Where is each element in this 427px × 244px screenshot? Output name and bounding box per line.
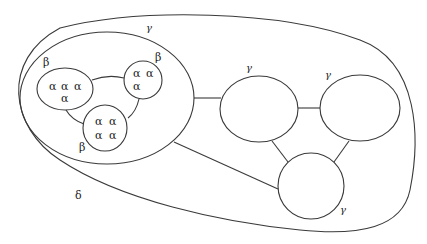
delta-label: δ	[75, 189, 82, 202]
alpha: α	[74, 80, 82, 93]
alpha: α	[95, 129, 103, 142]
alpha: α	[61, 92, 69, 105]
alpha: α	[109, 129, 117, 142]
gamma-node-left	[220, 76, 298, 142]
edge-beta1-beta2	[92, 76, 124, 80]
gamma-node-label-right: γ	[325, 69, 331, 80]
alpha: α	[133, 67, 141, 80]
alpha: α	[133, 80, 141, 93]
gamma-node-bottom	[278, 153, 344, 219]
edge-beta1-beta3	[66, 110, 84, 124]
edge-beta2-beta3	[128, 99, 139, 118]
gamma-node-label-bottom: γ	[340, 204, 346, 215]
gamma-node-label-left: γ	[246, 62, 252, 73]
alpha: α	[109, 115, 117, 128]
hierarchy-diagram: δ γ β β β γ γ γ α α α α α α α α α α α	[0, 0, 427, 244]
gamma-node-right	[320, 75, 400, 141]
gamma-group-ellipse	[20, 32, 194, 164]
beta-cluster-top-right	[124, 61, 162, 99]
alpha: α	[95, 115, 103, 128]
beta-label-left: β	[43, 56, 49, 69]
beta-cluster-bottom	[83, 105, 127, 151]
beta-label-top-right: β	[155, 51, 161, 64]
edge-gamma-right-bottom	[334, 141, 349, 162]
beta-label-bottom: β	[79, 141, 85, 154]
edge-gamma-left-bottom	[272, 141, 288, 162]
edge-group-to-gamma-bottom	[174, 142, 278, 189]
gamma-group-label: γ	[146, 22, 152, 33]
alpha: α	[49, 80, 57, 93]
alpha: α	[146, 67, 154, 80]
